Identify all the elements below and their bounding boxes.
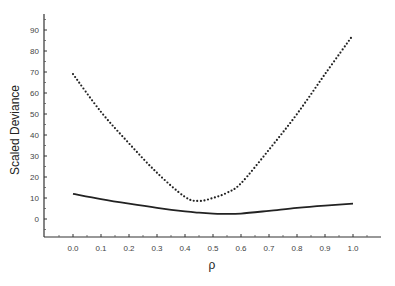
x-tick-label: 0.7 <box>263 244 275 253</box>
series-layer <box>73 35 353 214</box>
x-tick-label: 1.0 <box>347 244 359 253</box>
x-tick-label: 0.2 <box>123 244 135 253</box>
series-solid-line <box>73 194 353 214</box>
x-tick-label: 0.6 <box>235 244 247 253</box>
y-tick-label: 60 <box>30 89 39 98</box>
y-axis: 0102030405060708090 <box>30 14 47 237</box>
x-tick-label: 0.3 <box>151 244 163 253</box>
x-tick-label: 0.4 <box>179 244 191 253</box>
y-axis-title: Scaled Deviance <box>8 85 22 175</box>
x-tick-label: 0.0 <box>67 244 79 253</box>
scaled-deviance-chart: 0102030405060708090 0.00.10.20.30.40.50.… <box>0 0 395 286</box>
x-tick-label: 0.8 <box>291 244 303 253</box>
series-dotted-line <box>73 35 353 201</box>
y-tick-label: 20 <box>30 173 39 182</box>
y-tick-label: 90 <box>30 26 39 35</box>
y-tick-label: 10 <box>30 194 39 203</box>
x-tick-label: 0.9 <box>319 244 331 253</box>
y-tick-label: 30 <box>30 152 39 161</box>
x-tick-label: 0.5 <box>207 244 219 253</box>
y-tick-label: 50 <box>30 110 39 119</box>
x-axis-title: ρ <box>209 258 216 272</box>
y-tick-label: 70 <box>30 68 39 77</box>
x-axis: 0.00.10.20.30.40.50.60.70.80.91.0 <box>44 234 381 253</box>
y-tick-label: 40 <box>30 131 39 140</box>
x-tick-label: 0.1 <box>95 244 107 253</box>
y-tick-label: 0 <box>35 215 40 224</box>
y-tick-label: 80 <box>30 47 39 56</box>
